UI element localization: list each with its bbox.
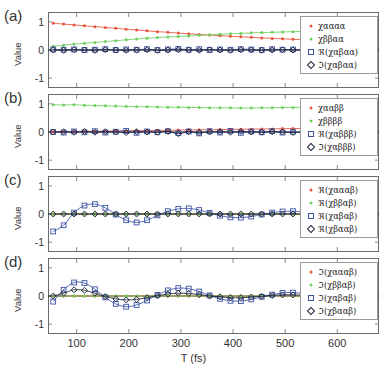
legend-label: ℜ(χαβαα) [318,47,358,57]
legend-item[interactable]: ℑ(χαβαα) [303,58,374,71]
legend-marker-dot-icon [303,265,318,278]
legend-c[interactable]: ℜ(χαααβ)ℜ(χββαβ)ℜ(χαβαβ)ℜ(χβααβ) [300,180,378,238]
legend-marker-diamond-icon [303,58,318,71]
legend-label: ℜ(χαααβ) [318,185,358,195]
y-axis-label: Value [12,206,23,230]
legend-b[interactable]: χααββχββββℜ(χαβββ)ℑ(χαβββ) [300,98,378,156]
legend-item[interactable]: ℜ(χαβαα) [303,45,374,58]
legend-label: χββαα [318,34,344,44]
x-tick-label: 400 [216,337,250,349]
legend-marker-dot-icon [303,19,318,32]
legend-label: χααββ [318,103,344,113]
legend-label: ℜ(χββαβ) [318,198,357,208]
x-tick-label: 500 [268,337,302,349]
y-tick-label: 1 [28,98,44,110]
y-tick-label: 1 [28,262,44,274]
panel-label-c: (c) [4,171,22,188]
legend-label: χββββ [318,116,342,126]
legend-item[interactable]: ℑ(χαβββ) [303,140,374,153]
legend-item[interactable]: ℜ(χαβββ) [303,127,374,140]
legend-label: ℑ(χαααβ) [318,267,357,277]
legend-marker-diamond-icon [303,140,318,153]
legend-item[interactable]: χαααα [303,19,374,32]
legend-marker-square-icon [303,127,318,140]
y-tick-label: 1 [28,180,44,192]
y-tick-label: 0 [28,126,44,138]
panel-label-b: (b) [4,89,22,106]
legend-item[interactable]: χββαα [303,32,374,45]
legend-item[interactable]: ℑ(χαβαβ) [303,291,374,304]
legend-marker-dot-icon [303,183,318,196]
legend-label: χαααα [318,21,345,31]
y-axis-label: Value [12,42,23,66]
legend-item[interactable]: ℑ(χβααβ) [303,304,374,317]
x-tick-label: 100 [60,337,94,349]
x-tick-label: 300 [164,337,198,349]
y-tick-label: 1 [28,16,44,28]
x-tick-label: 600 [320,337,354,349]
legend-marker-dot-icon [303,196,318,209]
y-tick-label: 0 [28,44,44,56]
figure-canvas: (a)Value10-1 [0,0,387,369]
panel-label-d: (d) [4,253,22,270]
legend-item[interactable]: ℜ(χαααβ) [303,183,374,196]
legend-label: ℜ(χαβαβ) [318,211,357,221]
legend-marker-diamond-icon [303,222,318,235]
legend-marker-dot-icon [303,278,318,291]
y-tick-label: 0 [28,208,44,220]
legend-label: ℑ(χβααβ) [318,306,356,316]
y-tick-label: -1 [28,154,44,166]
legend-label: ℑ(χαβαβ) [318,293,356,303]
legend-label: ℜ(χβααβ) [318,224,357,234]
legend-d[interactable]: ℑ(χαααβ)ℑ(χββαβ)ℑ(χαβαβ)ℑ(χβααβ) [300,262,378,320]
y-tick-label: -1 [28,318,44,330]
legend-item[interactable]: χααββ [303,101,374,114]
panel-label-a: (a) [4,7,22,24]
legend-a[interactable]: χααααχββααℜ(χαβαα)ℑ(χαβαα) [300,16,378,74]
y-tick-label: -1 [28,72,44,84]
legend-item[interactable]: ℜ(χβααβ) [303,222,374,235]
legend-item[interactable]: ℑ(χαααβ) [303,265,374,278]
y-axis-label: Value [12,288,23,312]
y-tick-label: -1 [28,236,44,248]
y-axis-label: Value [12,124,23,148]
x-tick-label: 200 [112,337,146,349]
x-axis-label: T (fs) [0,352,387,364]
legend-marker-dot-icon [303,114,318,127]
legend-item[interactable]: ℜ(χββαβ) [303,196,374,209]
legend-label: ℑ(χαβαα) [318,60,357,70]
legend-marker-diamond-icon [303,304,318,317]
legend-item[interactable]: ℜ(χαβαβ) [303,209,374,222]
legend-item[interactable]: ℑ(χββαβ) [303,278,374,291]
legend-marker-square-icon [303,209,318,222]
legend-label: ℑ(χββαβ) [318,280,356,290]
y-tick-label: 0 [28,290,44,302]
legend-item[interactable]: χββββ [303,114,374,127]
legend-marker-square-icon [303,291,318,304]
legend-label: ℜ(χαβββ) [318,129,357,139]
legend-marker-dot-icon [303,101,318,114]
legend-label: ℑ(χαβββ) [318,142,356,152]
legend-marker-square-icon [303,45,318,58]
legend-marker-dot-icon [303,32,318,45]
